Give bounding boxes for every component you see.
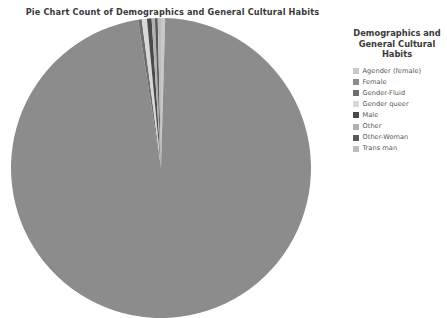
legend-item[interactable]: Gender queer xyxy=(352,99,447,110)
legend-item-label: Gender-Fluid xyxy=(363,90,406,97)
legend-item-label: Trans man xyxy=(363,145,398,152)
pie-chart-plot-area xyxy=(0,18,345,318)
legend-item-label: Male xyxy=(363,112,379,119)
legend-swatch-icon xyxy=(353,135,359,141)
legend-swatch-icon xyxy=(353,68,359,74)
legend-title: Demographics and General Cultural Habits xyxy=(352,28,442,60)
legend-swatch-icon xyxy=(353,124,359,130)
legend-item[interactable]: Other xyxy=(352,121,447,132)
legend-item[interactable]: Male xyxy=(352,110,447,121)
legend-item[interactable]: Gender-Fluid xyxy=(352,88,447,99)
legend-item-label: Other-Woman xyxy=(363,134,409,141)
chart-title: Pie Chart Count of Demographics and Gene… xyxy=(0,7,345,17)
legend-swatch-icon xyxy=(353,146,359,152)
legend-item[interactable]: Trans man xyxy=(352,143,447,154)
legend-item[interactable]: Agender (female) xyxy=(352,66,447,77)
pie-chart-svg xyxy=(0,18,345,318)
legend-item-label: Other xyxy=(363,123,382,130)
legend-item-label: Female xyxy=(363,79,387,86)
legend-swatch-icon xyxy=(353,90,359,96)
legend-item-label: Agender (female) xyxy=(363,68,422,75)
legend-swatch-icon xyxy=(353,79,359,85)
legend-swatch-icon xyxy=(353,112,359,118)
legend-item-list: Agender (female)FemaleGender-FluidGender… xyxy=(352,66,447,154)
pie-slice-group xyxy=(11,18,311,318)
legend-swatch-icon xyxy=(353,101,359,107)
legend-item[interactable]: Other-Woman xyxy=(352,132,447,143)
legend: Demographics and General Cultural Habits… xyxy=(352,28,447,155)
legend-item-label: Gender queer xyxy=(363,101,409,108)
legend-item[interactable]: Female xyxy=(352,77,447,88)
